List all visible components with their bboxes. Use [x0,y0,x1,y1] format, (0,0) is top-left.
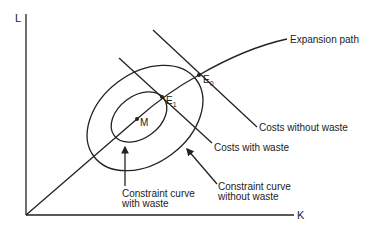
point-e1-marker [160,95,164,99]
constraint-with-waste-label-line2: with waste [121,198,169,209]
point-m-marker [135,117,139,121]
point-e0-marker [197,73,201,77]
arrow-constraint-without-waste [187,149,217,184]
constraint-without-waste-label-line2: without waste [217,191,279,202]
x-axis-label: K [297,209,305,221]
y-axis-label: L [15,12,21,24]
costs-with-waste-label: Costs with waste [214,142,289,153]
cost-constraint-diagram: L K Expansion path Costs without waste C… [0,0,384,229]
point-e0-label: E0 [203,74,214,87]
point-m-label: M [140,117,148,128]
expansion-path-label: Expansion path [290,34,359,45]
costs-without-waste-label: Costs without waste [259,122,348,133]
